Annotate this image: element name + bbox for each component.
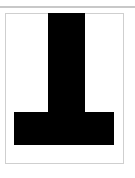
inverted-t-stem — [48, 13, 85, 113]
top-divider — [0, 6, 135, 8]
figure-canvas — [0, 0, 135, 178]
inverted-t-crossbar — [14, 112, 114, 145]
